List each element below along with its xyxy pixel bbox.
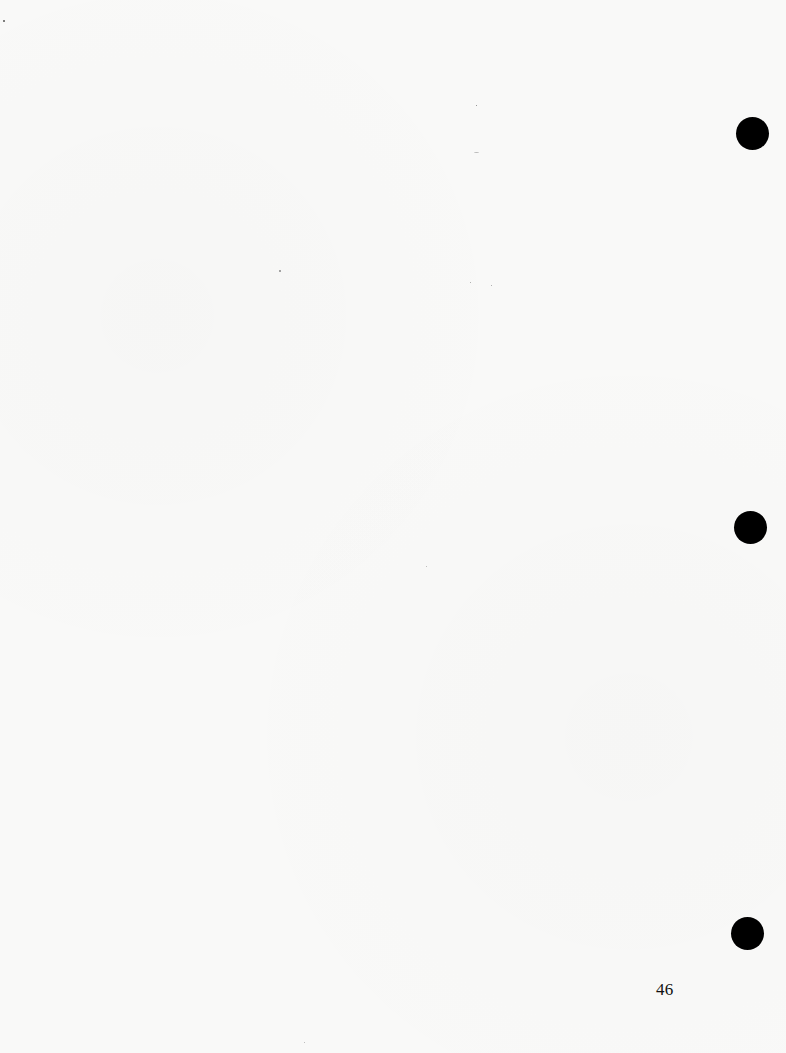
binder-hole-bottom [731,917,764,950]
binder-hole-top [736,117,769,150]
scan-speck [470,282,471,283]
binder-hole-middle [734,511,767,544]
scanned-page: 46 [0,0,786,1053]
scan-speck [426,566,427,567]
scan-speck [474,152,479,153]
scan-speck [304,1042,305,1043]
scan-speck [476,105,477,106]
scan-speck [279,270,281,272]
scan-speck [3,20,5,22]
scan-speck [491,285,492,286]
page-number: 46 [656,980,673,1000]
